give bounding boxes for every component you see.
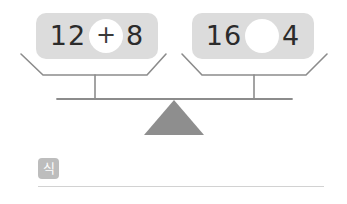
right-first-number: 16 xyxy=(206,22,242,51)
plus-icon: + xyxy=(96,23,116,49)
worksheet-canvas: 12 + 8 16 4 식 xyxy=(0,0,347,204)
right-expression-card: 16 4 xyxy=(192,13,314,59)
answer-input[interactable] xyxy=(64,160,322,185)
left-first-number: 12 xyxy=(50,22,86,51)
answer-label-chip: 식 xyxy=(38,158,59,179)
answer-underline xyxy=(38,186,324,187)
answer-row: 식 xyxy=(38,158,324,192)
right-second-number: 4 xyxy=(282,22,300,51)
left-second-number: 8 xyxy=(126,22,144,51)
right-operator-circle-blank[interactable] xyxy=(245,19,279,53)
left-operator-circle[interactable]: + xyxy=(89,19,123,53)
left-expression-card: 12 + 8 xyxy=(36,13,158,59)
answer-label-text: 식 xyxy=(43,162,55,175)
triangle-fulcrum-icon xyxy=(144,100,204,135)
